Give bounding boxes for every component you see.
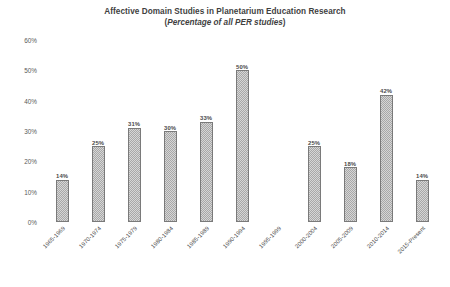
x-axis-tick-label: 2000-2004 xyxy=(294,225,318,249)
x-axis-slot: 1995-1999 xyxy=(260,222,296,282)
bar-value-label: 25% xyxy=(308,140,320,146)
x-axis-slot: 1985-1989 xyxy=(188,222,224,282)
chart-title-block: Affective Domain Studies in Planetarium … xyxy=(0,7,450,29)
x-axis-slot: 1965-1969 xyxy=(44,222,80,282)
bar-value-label: 25% xyxy=(92,140,104,146)
x-axis-tick-label: 1975-1979 xyxy=(114,225,138,249)
bar-value-label: 31% xyxy=(128,121,140,127)
bar[interactable]: 42% xyxy=(380,95,393,222)
bar-slot: 25% xyxy=(80,40,116,222)
y-axis-tick-label: 40% xyxy=(24,97,37,104)
page-title: Affective Domain Studies in Planetarium … xyxy=(0,7,450,17)
subtitle-close-paren: ) xyxy=(283,18,286,27)
bar[interactable]: 14% xyxy=(416,180,429,222)
x-axis-tick-label: 1985-1989 xyxy=(186,225,210,249)
x-axis-slot: 2000-2004 xyxy=(296,222,332,282)
x-axis-tick-label: 1995-1999 xyxy=(258,225,282,249)
y-axis-tick-label: 10% xyxy=(24,188,37,195)
bar[interactable]: 18% xyxy=(344,167,357,222)
bar-value-label: 30% xyxy=(164,125,176,131)
bar[interactable]: 14% xyxy=(56,180,69,222)
bar-value-label: 14% xyxy=(416,173,428,179)
x-axis-slot: 1970-1974 xyxy=(80,222,116,282)
bar-slot: 42% xyxy=(368,40,404,222)
x-axis-tick-label: 2010-2014 xyxy=(366,225,390,249)
bar-value-label: 50% xyxy=(236,64,248,70)
x-axis-slot: 1990-1994 xyxy=(224,222,260,282)
plot-area: 14%25%31%30%33%50%25%18%42%14% xyxy=(44,40,440,222)
y-axis: 0%10%20%30%40%50%60% xyxy=(0,40,42,222)
bar-slot: 33% xyxy=(188,40,224,222)
bar-chart-figure: Affective Domain Studies in Planetarium … xyxy=(0,0,450,287)
bar-value-label: 18% xyxy=(344,161,356,167)
x-axis-tick-label: 1990-1994 xyxy=(222,225,246,249)
x-axis-slot: 1975-1979 xyxy=(116,222,152,282)
bar[interactable]: 50% xyxy=(236,70,249,222)
x-axis-tick-label: 1970-1974 xyxy=(78,225,102,249)
bar-value-label: 42% xyxy=(380,88,392,94)
bar-value-label: 33% xyxy=(200,115,212,121)
x-axis-slot: 2005-2009 xyxy=(332,222,368,282)
bar[interactable]: 30% xyxy=(164,131,177,222)
y-axis-tick-label: 60% xyxy=(24,37,37,44)
subtitle-italic-text: Percentage of all PER studies xyxy=(167,18,283,27)
x-axis: 1965-19691970-19741975-19791980-19841985… xyxy=(44,222,440,282)
bar-slot: 31% xyxy=(116,40,152,222)
bar[interactable]: 31% xyxy=(128,128,141,222)
bar-slot: 25% xyxy=(296,40,332,222)
bar-value-label: 14% xyxy=(56,173,68,179)
bar[interactable]: 25% xyxy=(308,146,321,222)
bar-slot: 30% xyxy=(152,40,188,222)
bar[interactable]: 33% xyxy=(200,122,213,222)
x-axis-slot: 1980-1984 xyxy=(152,222,188,282)
chart-subtitle: (Percentage of all PER studies) xyxy=(0,18,450,28)
bar-slot xyxy=(260,40,296,222)
x-axis-tick-label: 1965-1969 xyxy=(42,225,66,249)
bar-slot: 14% xyxy=(404,40,440,222)
y-axis-tick-label: 0% xyxy=(28,219,37,226)
bar-slot: 18% xyxy=(332,40,368,222)
y-axis-tick-label: 50% xyxy=(24,67,37,74)
bar-series: 14%25%31%30%33%50%25%18%42%14% xyxy=(44,40,440,222)
bar[interactable]: 25% xyxy=(92,146,105,222)
y-axis-tick-label: 20% xyxy=(24,158,37,165)
x-axis-slot: 2015-Present xyxy=(404,222,440,282)
bar-slot: 50% xyxy=(224,40,260,222)
y-axis-tick-label: 30% xyxy=(24,128,37,135)
x-axis-tick-label: 1980-1984 xyxy=(150,225,174,249)
bar-slot: 14% xyxy=(44,40,80,222)
x-axis-tick-label: 2005-2009 xyxy=(330,225,354,249)
